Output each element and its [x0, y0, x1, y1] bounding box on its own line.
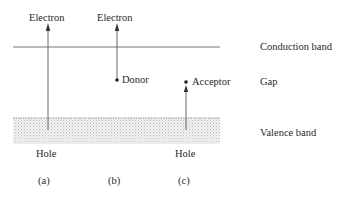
caption-c: (c)	[178, 175, 190, 187]
acceptor-level-dot-icon	[184, 80, 188, 84]
conduction-band-label: Conduction band	[260, 41, 332, 53]
acceptor-label: Acceptor	[192, 76, 230, 88]
gap-label: Gap	[260, 76, 278, 88]
electron-label-b: Electron	[97, 12, 133, 24]
caption-a: (a)	[38, 175, 50, 187]
hole-label-c: Hole	[175, 148, 195, 160]
valence-band-region	[13, 118, 220, 144]
caption-b: (b)	[108, 175, 120, 187]
arrow-a-icon	[46, 23, 50, 130]
band-diagram	[0, 0, 350, 197]
arrow-b-icon	[115, 23, 119, 79]
donor-label: Donor	[122, 74, 149, 86]
electron-label-a: Electron	[29, 12, 65, 24]
donor-level-dot-icon	[115, 78, 119, 82]
valence-band-label: Valence band	[260, 127, 316, 139]
hole-label-a: Hole	[36, 148, 56, 160]
